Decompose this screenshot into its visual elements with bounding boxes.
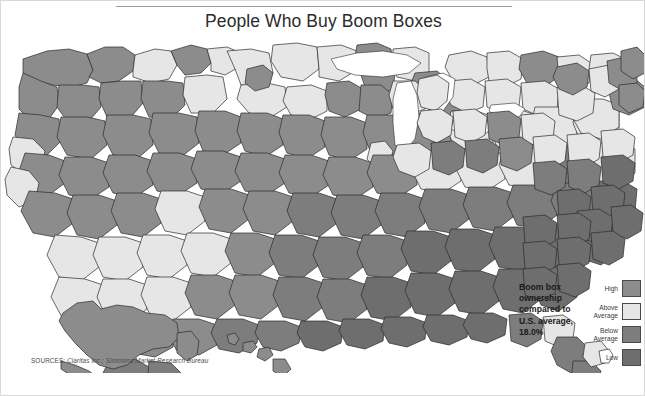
hawaii-inset	[273, 359, 291, 373]
map-region	[279, 155, 329, 197]
legend-item-label: Above Average	[594, 304, 622, 319]
map-region	[331, 195, 381, 239]
map-region	[137, 235, 187, 279]
map-region	[199, 189, 249, 233]
map-region	[463, 313, 507, 343]
map-region	[445, 229, 495, 273]
sources-label: SOURCES:	[31, 357, 65, 364]
legend-swatch-low	[622, 349, 641, 366]
map-region	[147, 153, 197, 195]
legend-item-low: Low	[591, 346, 641, 369]
map-region	[419, 189, 469, 233]
map-region	[111, 193, 161, 237]
map-region	[283, 85, 327, 119]
map-figure: People Who Buy Boom Boxes	[0, 0, 645, 396]
sources-line: SOURCES: Claritas Inc.; Simmons Market R…	[31, 357, 208, 364]
map-region	[67, 195, 117, 239]
legend-item-high: High	[591, 277, 641, 300]
map-region	[601, 155, 635, 189]
legend-caption: Boom box ownership compared to U.S. aver…	[519, 282, 587, 338]
map-region	[103, 155, 153, 197]
hawaii-inset	[257, 347, 273, 361]
map-region	[279, 115, 325, 159]
map-region	[93, 237, 143, 281]
map-region	[381, 317, 427, 347]
sources-names: Claritas Inc.; Simmons Market Research B…	[67, 357, 208, 364]
map-region	[405, 273, 455, 317]
map-region	[59, 157, 109, 199]
map-region	[463, 187, 513, 231]
map-region	[185, 275, 235, 319]
map-region	[229, 275, 279, 319]
map-region	[255, 321, 301, 351]
map-region	[21, 191, 73, 237]
legend-item-label: Below Average	[594, 327, 622, 342]
map-region	[271, 43, 319, 81]
map-region	[225, 233, 275, 277]
map-region	[235, 153, 285, 195]
map-region	[375, 193, 425, 237]
map-region	[361, 277, 411, 321]
map-region	[273, 277, 323, 321]
legend-item-label: Low	[606, 354, 622, 361]
map-region	[297, 321, 343, 351]
map-region	[183, 75, 227, 113]
map-region	[401, 231, 451, 275]
map-region	[171, 45, 211, 75]
title-divider	[116, 6, 512, 7]
map-region	[339, 319, 385, 349]
map-region	[423, 315, 469, 345]
map-region	[149, 113, 199, 157]
map-region	[449, 271, 499, 315]
legend-item-below-average: Below Average	[591, 323, 641, 346]
map-region	[321, 117, 367, 161]
legend-swatch-above-average	[622, 303, 641, 320]
map-region	[99, 81, 143, 117]
map-region	[155, 191, 205, 235]
legend-swatch-below-average	[622, 326, 641, 343]
map-region	[103, 115, 153, 159]
map-region	[87, 47, 135, 83]
map-region	[287, 193, 337, 237]
map-region	[269, 235, 319, 279]
legend-swatch-high	[622, 280, 641, 297]
legend-item-above-average: Above Average	[591, 300, 641, 323]
map-region	[195, 111, 241, 155]
map-region	[47, 235, 99, 281]
map-region	[357, 235, 407, 279]
map-region	[57, 117, 107, 159]
map-region	[133, 49, 177, 83]
map-region	[325, 81, 363, 117]
map-region	[591, 231, 625, 265]
legend-key: High Above Average Below Average Low	[591, 277, 641, 369]
legend-item-label: High	[604, 285, 622, 292]
map-region	[243, 191, 293, 235]
map-region	[181, 233, 231, 277]
map-region	[237, 113, 283, 157]
map-region	[57, 85, 101, 121]
map-region	[313, 237, 363, 281]
map-region	[323, 157, 373, 199]
map-region	[191, 151, 241, 193]
map-region	[317, 279, 367, 323]
